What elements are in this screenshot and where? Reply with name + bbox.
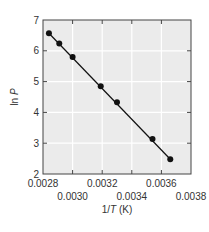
- y-tick-label: 7: [33, 15, 39, 26]
- chart: 0.00280.00300.00320.00340.00360.0038 234…: [0, 0, 209, 232]
- x-tick-label: 0.0028: [28, 178, 59, 189]
- y-tick-labels: 234567: [33, 15, 39, 180]
- x-tick-label: 0.0038: [176, 191, 207, 202]
- x-tick-label: 0.0034: [117, 191, 148, 202]
- x-tick-label: 0.0032: [87, 178, 118, 189]
- data-point: [56, 40, 62, 46]
- y-tick-label: 2: [33, 169, 39, 180]
- y-tick-label: 5: [33, 76, 39, 87]
- data-point: [114, 99, 120, 105]
- data-point: [167, 156, 173, 162]
- data-point: [46, 30, 52, 36]
- y-tick-label: 3: [33, 138, 39, 149]
- x-tick-labels: 0.00280.00300.00320.00340.00360.0038: [28, 178, 207, 202]
- y-tick-label: 4: [33, 107, 39, 118]
- data-point: [98, 83, 104, 89]
- x-tick-label: 0.0036: [146, 178, 177, 189]
- x-axis-label: 1/T (K): [102, 204, 133, 215]
- y-axis-label: ln P: [9, 88, 20, 106]
- x-tick-label: 0.0030: [57, 191, 88, 202]
- data-point: [70, 54, 76, 60]
- y-tick-label: 6: [33, 45, 39, 56]
- plot-area: [43, 20, 191, 174]
- data-point: [150, 136, 156, 142]
